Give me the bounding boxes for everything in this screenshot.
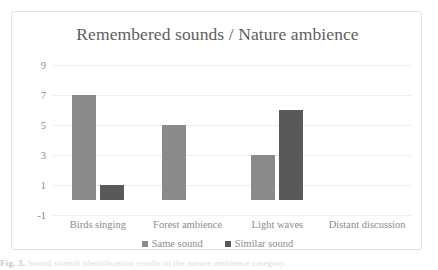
bar-group <box>322 65 412 215</box>
figure-caption: Fig. 3. Sound stimuli identification res… <box>0 258 438 270</box>
category-label: Distant discussion <box>322 215 412 235</box>
caption-text: Sound stimuli identification results in … <box>28 258 287 268</box>
bar[interactable] <box>162 125 186 200</box>
category-label: Forest ambience <box>143 215 233 235</box>
chart-screenshot: Remembered sounds / Nature ambience 9753… <box>0 0 438 270</box>
y-axis-tick-label: 5 <box>41 120 46 131</box>
category-label: Light waves <box>233 215 323 235</box>
legend-swatch-icon <box>142 241 148 247</box>
category-axis: Birds singingForest ambienceLight wavesD… <box>53 215 412 235</box>
chart-legend: Same soundSimilar sound <box>12 238 423 249</box>
legend-swatch-icon <box>225 241 231 247</box>
chart-title: Remembered sounds / Nature ambience <box>12 24 423 45</box>
y-axis-tick-label: -1 <box>37 210 46 221</box>
bar-group <box>53 65 143 215</box>
category-label: Birds singing <box>53 215 143 235</box>
y-axis-tick-label: 3 <box>41 150 46 161</box>
legend-label: Same sound <box>152 238 203 249</box>
legend-item[interactable]: Similar sound <box>225 238 294 249</box>
y-axis-tick-label: 1 <box>41 180 46 191</box>
plot-area: 97531-1 <box>53 65 412 215</box>
chart-frame: Remembered sounds / Nature ambience 9753… <box>11 11 422 250</box>
bar[interactable] <box>72 95 96 200</box>
bar-group <box>143 65 233 215</box>
bar-series-container <box>53 65 412 215</box>
legend-label: Similar sound <box>235 238 294 249</box>
bar-group <box>233 65 323 215</box>
y-axis-tick-label: 9 <box>41 60 46 71</box>
bar[interactable] <box>251 155 275 200</box>
bar[interactable] <box>100 185 124 200</box>
legend-item[interactable]: Same sound <box>142 238 203 249</box>
bar[interactable] <box>279 110 303 200</box>
caption-prefix: Fig. 3. <box>0 258 25 268</box>
y-axis-tick-label: 7 <box>41 90 46 101</box>
